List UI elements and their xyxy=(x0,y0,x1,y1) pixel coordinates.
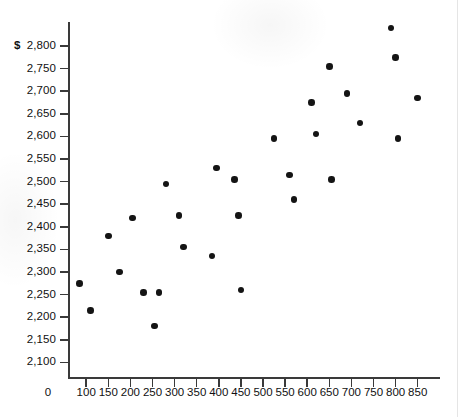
y-tick-label: 2,200 xyxy=(0,310,56,322)
data-point xyxy=(140,289,147,296)
x-axis xyxy=(68,377,440,379)
y-tick-label: 2,400 xyxy=(0,220,56,232)
data-point xyxy=(156,289,163,296)
y-tick-label: 2,700 xyxy=(0,84,56,96)
data-point xyxy=(286,172,293,179)
data-point xyxy=(231,176,238,183)
paper-smudge-top xyxy=(210,0,330,70)
data-point xyxy=(76,280,83,287)
x-tick-label: 850 xyxy=(398,386,438,398)
data-point xyxy=(308,99,315,106)
y-tick xyxy=(60,136,69,138)
y-tick xyxy=(60,113,69,115)
data-point xyxy=(105,233,112,240)
data-point xyxy=(209,253,216,260)
y-tick xyxy=(60,226,69,228)
y-tick xyxy=(60,45,69,47)
y-tick xyxy=(60,249,69,251)
y-tick-label: 2,300 xyxy=(0,265,56,277)
y-tick xyxy=(60,158,69,160)
data-point xyxy=(392,54,399,61)
y-tick xyxy=(60,181,69,183)
data-point xyxy=(163,181,170,188)
data-point xyxy=(176,212,183,219)
data-point xyxy=(235,212,242,219)
data-point xyxy=(357,120,364,127)
data-point xyxy=(238,287,245,294)
data-point xyxy=(291,196,298,203)
data-point xyxy=(328,176,335,183)
data-point xyxy=(180,244,187,251)
data-point xyxy=(271,135,278,142)
x-tick-label: 0 xyxy=(28,386,68,398)
y-tick-label: 2,550 xyxy=(0,152,56,164)
data-point xyxy=(414,95,421,102)
y-tick-label: 2,500 xyxy=(0,175,56,187)
y-tick xyxy=(60,362,69,364)
data-point xyxy=(87,307,94,314)
scatter-plot: $ 2,1002,1502,2002,2502,3002,3502,4002,4… xyxy=(0,0,466,417)
y-tick-label: 2,800 xyxy=(0,39,56,51)
y-tick xyxy=(60,90,69,92)
y-tick-label: 2,100 xyxy=(0,355,56,367)
data-point xyxy=(213,165,220,172)
data-point xyxy=(313,131,320,138)
data-point xyxy=(151,323,158,330)
data-point xyxy=(344,90,351,97)
y-tick-label: 2,750 xyxy=(0,62,56,74)
data-point xyxy=(395,135,402,142)
data-point xyxy=(326,63,333,70)
y-tick-label: 2,650 xyxy=(0,107,56,119)
y-axis xyxy=(68,22,70,378)
y-tick xyxy=(60,316,69,318)
y-tick-label: 2,150 xyxy=(0,333,56,345)
y-tick-label: 2,250 xyxy=(0,288,56,300)
y-tick-label: 2,450 xyxy=(0,197,56,209)
data-point xyxy=(388,25,395,32)
page-edge-right xyxy=(457,0,458,417)
y-tick xyxy=(60,68,69,70)
y-tick-label: 2,350 xyxy=(0,242,56,254)
y-tick xyxy=(60,294,69,296)
y-tick xyxy=(60,271,69,273)
y-tick-label: 2,600 xyxy=(0,129,56,141)
y-tick xyxy=(60,203,69,205)
y-tick xyxy=(60,339,69,341)
data-point xyxy=(116,269,123,276)
data-point xyxy=(129,215,136,222)
